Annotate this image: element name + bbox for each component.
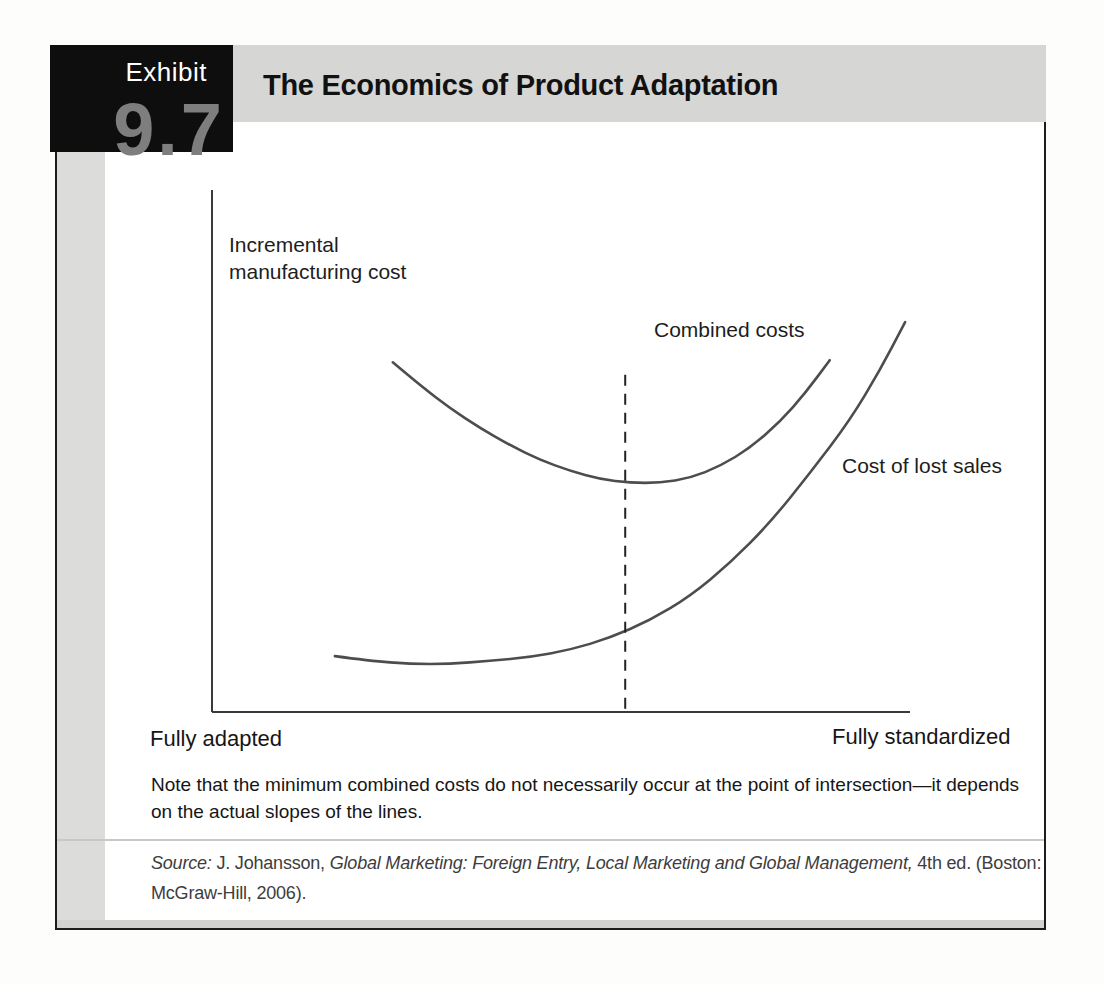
chart-canvas	[0, 0, 1104, 984]
source-line1: Source: J. Johansson, Global Marketing: …	[151, 848, 1071, 878]
source-separator-rule	[57, 839, 1044, 841]
note-line1: Note that the minimum combined costs do …	[151, 771, 1019, 798]
source-author: J. Johansson,	[212, 853, 330, 873]
x-axis-right-label: Fully standardized	[832, 724, 1011, 750]
combined-costs-curve	[393, 360, 830, 483]
source-line2: McGraw-Hill, 2006).	[151, 878, 1071, 908]
source-rest: 4th ed. (Boston:	[913, 853, 1042, 873]
scanned-textbook-page: Exhibit 9.7 The Economics of Product Ada…	[0, 0, 1104, 984]
note-line2: on the actual slopes of the lines.	[151, 798, 1019, 825]
y-axis-label: Incremental manufacturing cost	[229, 231, 406, 285]
source-citation: Source: J. Johansson, Global Marketing: …	[151, 848, 1071, 908]
combined-costs-label: Combined costs	[654, 318, 805, 342]
y-axis-label-line2: manufacturing cost	[229, 258, 406, 285]
y-axis-label-line1: Incremental	[229, 231, 406, 258]
note-text: Note that the minimum combined costs do …	[151, 771, 1019, 825]
source-prefix: Source:	[151, 853, 212, 873]
source-book-title: Global Marketing: Foreign Entry, Local M…	[330, 853, 913, 873]
cost-of-lost-sales-label: Cost of lost sales	[842, 454, 1002, 478]
x-axis-left-label: Fully adapted	[150, 726, 282, 752]
